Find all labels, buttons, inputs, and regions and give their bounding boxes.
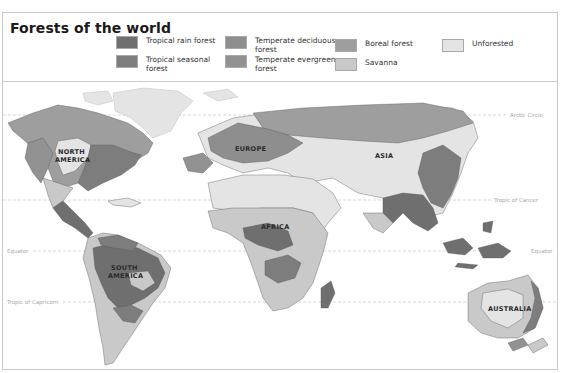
- legend-swatch: [335, 39, 357, 52]
- legend-label: Tropical seasonal forest: [146, 55, 231, 73]
- legend-item-temperate-evergreen-forest: Temperate evergreen forest: [225, 55, 340, 73]
- legend-swatch: [225, 36, 247, 49]
- north-america-label-line2: AMERICA: [55, 156, 90, 164]
- tropic-of-cancer-label: Tropic of Cancer: [493, 197, 539, 204]
- legend-label: Tropical rain forest: [146, 36, 231, 45]
- africa: [208, 175, 341, 311]
- southeast-asia-islands: [443, 221, 511, 269]
- legend-label: Temperate deciduous forest: [255, 36, 340, 54]
- south-america-label-line2: AMERICA: [108, 272, 143, 280]
- equator-label-right: Equator: [531, 248, 553, 255]
- legend-label: Savanna: [365, 58, 450, 67]
- legend-item-boreal-forest: Boreal forest: [335, 39, 450, 52]
- legend-swatch: [116, 36, 138, 49]
- south-america-label-line1: SOUTH: [111, 264, 138, 272]
- legend-swatch: [116, 55, 138, 68]
- legend-swatch: [442, 39, 464, 52]
- legend-swatch: [225, 55, 247, 68]
- north-america-label-line1: NORTH: [58, 148, 85, 156]
- australia: [468, 275, 548, 353]
- tropic-of-capricorn-label: Tropic of Capricorn: [6, 299, 59, 306]
- europe-label: EUROPE: [235, 145, 266, 153]
- arctic-circle-label: Arctic Circle: [510, 112, 543, 118]
- legend-item-temperate-deciduous-forest: Temperate deciduous forest: [225, 36, 340, 54]
- legend-item-savanna: Savanna: [335, 58, 450, 71]
- legend-label: Unforested: [472, 39, 557, 48]
- asia-label: ASIA: [375, 152, 393, 160]
- legend-label: Boreal forest: [365, 39, 450, 48]
- legend-item-unforested: Unforested: [442, 39, 557, 52]
- map-header: Forests of the world Tropical rain fores…: [2, 12, 558, 82]
- south-america: [83, 233, 171, 365]
- legend-item-tropical-seasonal-forest: Tropical seasonal forest: [116, 55, 231, 73]
- australia-label: AUSTRALIA: [488, 305, 532, 313]
- legend-item-tropical-rain-forest: Tropical rain forest: [116, 36, 231, 49]
- map-title: Forests of the world: [10, 20, 171, 36]
- africa-label: AFRICA: [261, 223, 290, 231]
- legend-swatch: [335, 58, 357, 71]
- north-america: [8, 105, 153, 238]
- world-map: Arctic Circle Tropic of Cancer Equator E…: [3, 83, 557, 369]
- equator-label-left: Equator: [7, 248, 29, 255]
- legend-label: Temperate evergreen forest: [255, 55, 340, 73]
